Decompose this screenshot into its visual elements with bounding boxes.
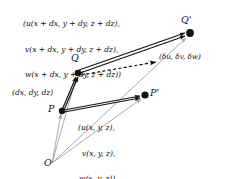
point-p-prime-marker	[141, 91, 148, 98]
velocity-at-p-annotation: (u(x, y, z), v(x, y, z), w(x, y, z))	[78, 107, 115, 179]
velocity-at-p-line-1: (u(x, y, z),	[78, 124, 115, 133]
point-label-p-prime: P'	[150, 88, 159, 99]
velocity-at-p-line-3: w(x, y, z))	[79, 175, 115, 179]
point-q-prime-marker	[186, 29, 194, 37]
figure-canvas: Q' Q P P' O (u(x + dx, y + dy, z + dz), …	[0, 0, 228, 179]
velocity-at-q-line-1: (u(x + dx, y + dy, z + dz),	[23, 20, 121, 29]
velocity-at-q-line-2: v(x + dx, y + dy, z + dz),	[25, 46, 121, 55]
velocity-at-q-annotation: (u(x + dx, y + dy, z + dz), v(x + dx, y …	[23, 3, 121, 97]
velocity-at-q-line-3: w(x + dx, y + dy, z + dz))	[25, 71, 121, 80]
velocity-at-p-line-2: v(x, y, z),	[82, 150, 115, 159]
point-label-origin: O	[44, 158, 52, 169]
point-label-q-prime: Q'	[181, 15, 192, 26]
separation-vector-annotation: (dx, dy, dz)	[12, 89, 53, 98]
velocity-difference-annotation: (δu, δv, δw)	[159, 53, 201, 61]
point-p-marker	[59, 108, 65, 114]
point-label-p: P	[48, 104, 55, 115]
